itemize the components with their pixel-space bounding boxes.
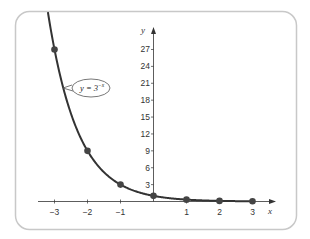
data-point xyxy=(84,148,91,155)
y-tick-label: 18 xyxy=(141,95,151,105)
y-tick-label: 15 xyxy=(141,112,151,122)
data-point xyxy=(117,181,124,188)
data-point xyxy=(183,196,190,203)
y-tick-label: 9 xyxy=(145,146,150,156)
x-tick-label: −2 xyxy=(83,207,93,217)
x-tick-label: 3 xyxy=(250,207,255,217)
x-tick-label: 1 xyxy=(184,207,189,217)
y-axis-label: y xyxy=(140,25,145,35)
x-tick-label: 2 xyxy=(217,207,222,217)
y-tick-label: 21 xyxy=(141,78,151,88)
y-tick-label: 12 xyxy=(141,129,151,139)
y-tick-label: 24 xyxy=(141,61,151,71)
data-point xyxy=(216,198,223,205)
x-tick-label: −1 xyxy=(116,207,126,217)
y-tick-label: 27 xyxy=(141,44,151,54)
y-tick-label: 6 xyxy=(145,163,150,173)
y-tick-label: 3 xyxy=(145,180,150,190)
exponential-chart: xy −3−2−1123369121518212427 y = 3−x xyxy=(0,0,310,239)
data-point xyxy=(249,198,256,205)
data-point xyxy=(51,46,58,53)
x-axis-label: x xyxy=(267,206,272,216)
data-point xyxy=(150,193,157,200)
x-tick-label: −3 xyxy=(50,207,60,217)
